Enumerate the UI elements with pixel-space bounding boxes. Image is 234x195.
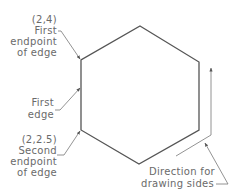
- label-text: drawing sides: [141, 178, 214, 189]
- direction-arrow: [176, 68, 211, 156]
- label-text: Direction for: [149, 166, 216, 177]
- leader-second-endpoint: [57, 131, 80, 155]
- coord-second-endpoint: (2,2.5): [22, 134, 57, 145]
- coord-first-endpoint: (2,4): [32, 14, 57, 25]
- label-text: endpoint: [10, 36, 57, 47]
- leader-first-endpoint: [58, 31, 80, 59]
- label-text: Second: [18, 145, 57, 156]
- hexagon-diagram: (2,4) First endpoint of edge First edge …: [0, 0, 234, 195]
- label-text: of edge: [17, 167, 57, 178]
- label-first-edge: First edge: [28, 97, 54, 120]
- leader-first-edge: [55, 88, 80, 110]
- label-first-endpoint: (2,4) First endpoint of edge: [10, 14, 57, 58]
- label-text: First: [34, 25, 57, 36]
- label-text: endpoint: [10, 156, 57, 167]
- label-text: edge: [28, 109, 54, 120]
- label-text: First: [31, 97, 54, 108]
- label-direction: Direction for drawing sides: [141, 166, 216, 189]
- hexagon-shape: [81, 26, 199, 164]
- label-second-endpoint: (2,2.5) Second endpoint of edge: [10, 134, 57, 178]
- label-text: of edge: [17, 47, 57, 58]
